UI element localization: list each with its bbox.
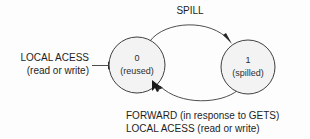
state-node-1-circle[interactable] [221, 40, 275, 94]
entry-label-line2: (read or write) [27, 65, 89, 76]
state-diagram: 0 (reused) 1 (spilled) SPILL LOCAL ACESS… [0, 0, 310, 139]
spill-arrow-head-icon [223, 33, 232, 44]
return-arc-line [160, 86, 238, 101]
return-label-line1: FORWARD (in response to GETS) [126, 110, 279, 121]
return-transition-arc [152, 81, 238, 101]
state-diagram-canvas: 0 (reused) 1 (spilled) SPILL LOCAL ACESS… [0, 0, 310, 139]
state-node-0-sublabel: (reused) [120, 66, 154, 76]
state-node-1-sublabel: (spilled) [232, 68, 264, 78]
spill-edge-label: SPILL [176, 5, 204, 16]
spill-transition-arc [150, 25, 232, 44]
entry-label-line1: LOCAL ACESS [20, 52, 89, 63]
state-node-0-label: 0 [134, 53, 139, 63]
state-node-1-label: 1 [245, 55, 250, 65]
state-node-1[interactable]: 1 (spilled) [221, 40, 275, 94]
return-label-line2: LOCAL ACESS (read or write) [126, 123, 260, 134]
spill-arc-line [150, 25, 230, 41]
